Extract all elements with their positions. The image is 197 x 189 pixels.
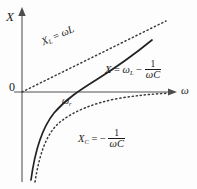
origin-label: 0 (9, 81, 15, 93)
capacitive-fraction: 1 ωC (108, 128, 124, 150)
capacitive-minus: − (100, 133, 106, 144)
reactance-frequency-figure: X 0 ω ωr XL = ωL X = ωL − 1 ωC XC = − 1 … (0, 0, 197, 189)
capacitive-den-omega: ω (109, 138, 116, 149)
x-axis-arrow (168, 88, 177, 95)
capacitive-subscript: C (84, 138, 88, 145)
annotation-capacitive-reactance: XC = − 1 ωC (78, 128, 125, 150)
y-axis-label: X (6, 10, 14, 23)
total-equals: = (114, 64, 120, 75)
annotation-total-reactance: X = ωL − 1 ωC (105, 59, 161, 81)
total-minus: − (136, 64, 142, 75)
total-fraction: 1 ωC (145, 59, 161, 81)
capacitive-fraction-numerator: 1 (108, 128, 124, 138)
inductive-subscript: L (47, 37, 53, 45)
resonance-frequency-label: ωr (62, 96, 71, 107)
plot-canvas (0, 0, 197, 189)
total-fraction-numerator: 1 (145, 59, 161, 69)
capacitive-den-capacitance: C (117, 138, 124, 149)
total-fraction-denominator: ωC (145, 69, 161, 81)
resonance-omega: ω (62, 95, 69, 106)
total-den-capacitance: C (153, 69, 160, 80)
total-omega: ω (123, 64, 130, 75)
total-symbol: X (105, 64, 111, 75)
y-axis-arrow (18, 7, 25, 16)
resonance-subscript: r (69, 100, 71, 107)
capacitive-equals: = (91, 133, 97, 144)
capacitive-fraction-denominator: ωC (108, 138, 124, 150)
total-omega-subscript: L (130, 69, 134, 76)
x-axis-label: ω (181, 85, 189, 96)
